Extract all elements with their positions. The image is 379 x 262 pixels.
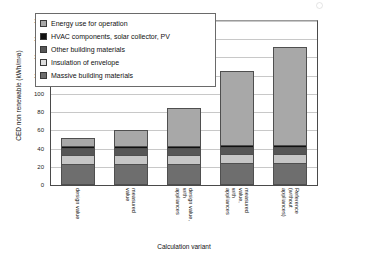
legend-item[interactable]: Massive building materials: [40, 69, 211, 82]
y-tick-label: 0: [41, 182, 44, 188]
bar-segment[interactable]: [221, 72, 253, 146]
legend-swatch-icon: [40, 20, 47, 27]
legend-item-label: Insulation of envelope: [51, 59, 119, 67]
legend-item[interactable]: Insulation of envelope: [40, 56, 211, 69]
legend-swatch-icon: [40, 33, 47, 40]
y-tick-label: 100: [34, 91, 44, 97]
x-tick-label: design value: [74, 188, 80, 219]
bar-segment[interactable]: [115, 131, 147, 147]
chart-legend: Energy use for operationHVAC components,…: [35, 13, 216, 87]
x-tick-label: measured value, with appliances: [224, 188, 250, 221]
legend-item-label: Other building materials: [51, 46, 125, 54]
bar-segment[interactable]: [62, 156, 94, 165]
bar-segment[interactable]: [62, 139, 94, 148]
bar-segment[interactable]: [168, 156, 200, 165]
y-tick-label: 80: [37, 109, 44, 115]
bar-slot: [211, 21, 264, 185]
legend-item[interactable]: HVAC components, solar collector, PV: [40, 30, 211, 43]
bar-segment[interactable]: [62, 165, 94, 184]
legend-swatch-icon: [40, 59, 47, 66]
bar-segment[interactable]: [274, 155, 306, 164]
bar-segment[interactable]: [168, 149, 200, 156]
x-tick-label: Reference (without appliances): [281, 188, 300, 221]
bar-segment[interactable]: [62, 149, 94, 156]
bar-segment[interactable]: [221, 164, 253, 184]
bar-segment[interactable]: [115, 156, 147, 165]
bar-segment[interactable]: [221, 155, 253, 164]
stacked-bar[interactable]: [114, 130, 148, 185]
bar-slot: [264, 21, 317, 185]
bar-segment[interactable]: [115, 149, 147, 156]
y-tick-label: 20: [37, 164, 44, 170]
scan-artifact-mark: [316, 2, 323, 9]
legend-item[interactable]: Energy use for operation: [40, 17, 211, 30]
y-tick-label: 60: [37, 127, 44, 133]
stacked-bar[interactable]: [167, 108, 201, 185]
bar-segment[interactable]: [115, 165, 147, 184]
legend-swatch-icon: [40, 72, 47, 79]
bar-segment[interactable]: [274, 164, 306, 184]
stacked-bar[interactable]: [273, 47, 307, 185]
x-tick-label: design value, with appliances: [174, 188, 193, 221]
bar-segment[interactable]: [274, 48, 306, 147]
bar-segment[interactable]: [274, 148, 306, 155]
legend-item-label: HVAC components, solar collector, PV: [51, 33, 170, 41]
y-tick-label: 40: [37, 146, 44, 152]
stacked-bar[interactable]: [61, 138, 95, 185]
stacked-bar[interactable]: [220, 71, 254, 185]
bar-chart: CED non renewable (kWh/m²a) 020406080100…: [0, 0, 379, 262]
legend-item-label: Massive building materials: [51, 72, 133, 80]
legend-item-label: Energy use for operation: [51, 20, 128, 28]
x-axis-ticks: design valuemeasured valuedesign value, …: [51, 188, 317, 242]
bar-segment[interactable]: [221, 148, 253, 155]
bar-segment[interactable]: [168, 109, 200, 146]
x-tick-label: measured value: [124, 188, 137, 221]
legend-swatch-icon: [40, 46, 47, 53]
legend-item[interactable]: Other building materials: [40, 43, 211, 56]
bar-segment[interactable]: [168, 165, 200, 184]
x-axis-title: Calculation variant: [50, 243, 318, 250]
x-tick-label-wrap: Reference (without appliances): [257, 188, 323, 242]
